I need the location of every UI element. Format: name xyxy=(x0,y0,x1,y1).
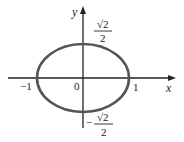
tick-x-pos-one: 1 xyxy=(133,81,139,93)
y-axis-arrow-icon xyxy=(80,6,86,14)
y-axis-label: y xyxy=(71,5,78,19)
tick-y-pos-fraction: √2 2 xyxy=(94,18,112,44)
fraction-numerator: √2 xyxy=(97,111,109,123)
origin-label: 0 xyxy=(74,80,80,92)
tick-x-neg-one: −1 xyxy=(20,80,32,92)
fraction-denominator: 2 xyxy=(101,126,107,138)
tick-y-neg-fraction: − √2 2 xyxy=(86,111,113,138)
ellipse-diagram: y x −1 0 1 √2 2 − √2 2 xyxy=(0,0,184,142)
fraction-numerator: √2 xyxy=(97,18,109,30)
x-axis-label: x xyxy=(165,81,172,95)
minus-sign: − xyxy=(86,116,92,128)
fraction-denominator: 2 xyxy=(100,32,106,44)
